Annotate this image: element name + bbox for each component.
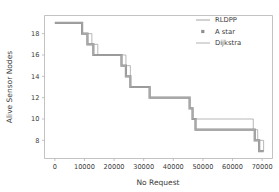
y-tick-label: 10 [31,115,39,123]
x-tick-label: 70000 [252,163,273,171]
line-chart: 010000200003000040000500006000070000 810… [0,0,279,192]
legend-label: RLDPP [215,16,237,24]
x-axis-tick-labels: 010000200003000040000500006000070000 [53,163,273,171]
legend-label: A star [215,28,235,36]
legend-marker-swatch [201,30,204,33]
y-tick-label: 12 [31,94,39,102]
x-tick-label: 0 [53,163,57,171]
x-tick-label: 60000 [222,163,243,171]
y-tick-label: 14 [31,73,39,81]
legend-label: Dijkstra [215,39,241,47]
y-tick-label: 16 [31,51,39,59]
x-tick-label: 10000 [74,163,95,171]
chart-legend: RLDPPA starDijkstra [196,16,241,47]
x-tick-label: 30000 [133,163,154,171]
x-tick-label: 40000 [163,163,184,171]
axes-spines [45,16,273,159]
x-tick-label: 50000 [192,163,213,171]
y-tick-label: 8 [35,137,39,145]
y-axis-tick-labels: 81012141618 [31,30,39,145]
x-tick-label: 20000 [104,163,125,171]
y-axis-label: Alive Sensor Nodes [5,51,14,123]
chart-figure: 010000200003000040000500006000070000 810… [0,0,279,192]
x-axis-label: No Request [136,178,179,187]
y-tick-label: 18 [31,30,39,38]
